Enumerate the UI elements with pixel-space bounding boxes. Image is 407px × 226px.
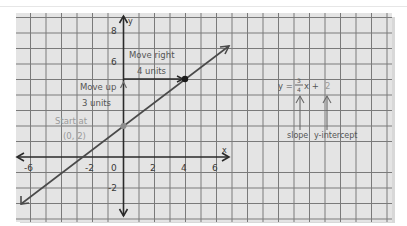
move-up-label-2: 3 units [82, 98, 112, 108]
slope-numerator: 3 [297, 77, 301, 84]
x-tick-neg2: -2 [85, 163, 94, 173]
end-point [182, 76, 188, 82]
y-axis [120, 16, 128, 216]
start-annotation: Start at (0, 2) [55, 116, 88, 141]
equation-x-term: x + [304, 81, 319, 91]
y-tick-neg2: -2 [108, 183, 117, 193]
equation-arrows [296, 96, 331, 130]
y-tick-8: 8 [111, 26, 117, 36]
x-tick-4: 4 [181, 163, 187, 173]
equation: y = 3 4 x + 2 slope y-intercept [278, 77, 357, 140]
start-point [121, 123, 127, 129]
intercept-label: y-intercept [314, 131, 357, 140]
move-right-label-1: Move right [129, 50, 175, 60]
move-up-label-1: Move up [80, 82, 116, 92]
x-tick-6: 6 [212, 163, 218, 173]
slope-label: slope [287, 131, 308, 140]
y-axis-label: y [128, 17, 133, 26]
x-tick-neg6: -6 [24, 163, 33, 173]
slope-denominator: 4 [297, 86, 301, 93]
move-right-label-2: 4 units [137, 66, 167, 76]
y-tick-6: 6 [111, 57, 117, 67]
start-label-1: Start at [55, 116, 88, 126]
equation-lhs: y = [278, 81, 293, 91]
coordinate-graph: -6 -2 0 2 4 6 8 6 -2 x y Move right 4 un… [0, 0, 407, 226]
move-right-arrow [124, 76, 184, 82]
x-tick-0: 0 [111, 163, 117, 173]
x-tick-2: 2 [150, 163, 156, 173]
start-label-2: (0, 2) [63, 131, 86, 141]
tick-labels: -6 -2 0 2 4 6 8 6 -2 x y [24, 17, 227, 193]
equation-intercept: 2 [325, 81, 330, 91]
x-axis-label: x [222, 146, 227, 155]
